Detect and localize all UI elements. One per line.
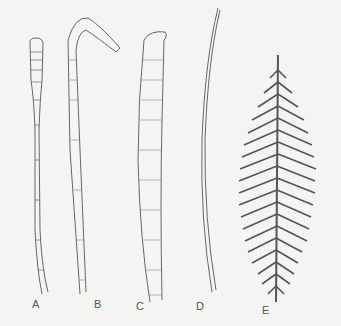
specimen-a-drawing <box>30 38 48 294</box>
specimen-b-drawing <box>68 18 120 294</box>
label-c: C <box>136 300 144 312</box>
label-d: D <box>196 300 204 312</box>
specimen-e-drawing <box>239 55 316 302</box>
label-e: E <box>262 304 269 316</box>
label-a: A <box>32 298 39 310</box>
specimen-d-drawing <box>202 8 220 292</box>
label-b: B <box>94 298 101 310</box>
specimen-c-drawing <box>138 32 166 302</box>
specimen-illustration <box>0 0 341 326</box>
